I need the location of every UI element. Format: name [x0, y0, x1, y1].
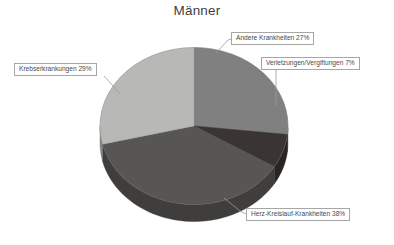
- pie-chart-figure: Männer Andere Krankheiten 27% Verletzung…: [0, 0, 394, 245]
- pie-label-andere-krankheiten: Andere Krankheiten 27%: [231, 32, 314, 45]
- pie-top-faces: [100, 48, 288, 205]
- leader-line-andere-krankheiten: [216, 39, 231, 53]
- pie-label-herz-kreislauf-krankheiten: Herz-Kreislauf-Krankheiten 38%: [246, 208, 350, 221]
- pie-label-krebserkrankungen: Krebserkrankungen 29%: [14, 63, 97, 76]
- pie-label-verletzungen-vergiftungen: Verletzungen/Vergiftungen 7%: [261, 57, 360, 70]
